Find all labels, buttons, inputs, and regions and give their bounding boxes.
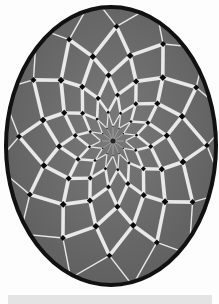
egg-figure xyxy=(0,0,219,290)
caption-bar xyxy=(8,295,212,304)
